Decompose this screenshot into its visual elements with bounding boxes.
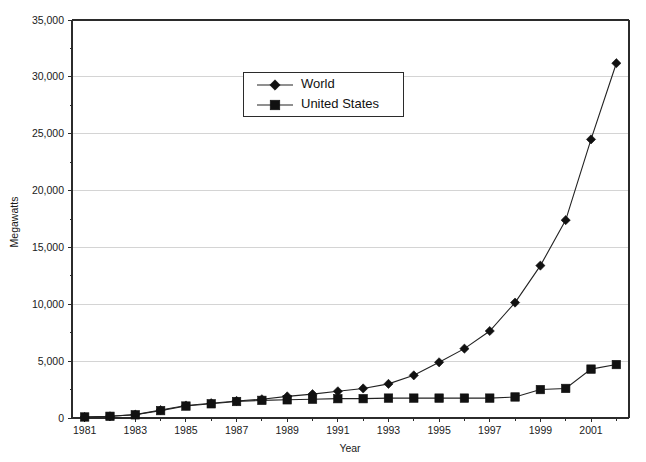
data-point	[612, 59, 621, 68]
data-point	[435, 358, 444, 367]
data-point	[384, 379, 393, 388]
data-point	[587, 365, 595, 373]
data-point	[511, 393, 519, 401]
data-point	[207, 400, 215, 408]
data-point	[359, 394, 367, 402]
x-axis-title: Year	[339, 442, 361, 454]
data-point	[384, 394, 392, 402]
legend-label: United States	[301, 96, 380, 111]
data-point	[106, 412, 114, 420]
x-tick-label: 1991	[326, 424, 350, 436]
data-point	[586, 135, 595, 144]
y-tick-label: 20,000	[32, 184, 64, 196]
x-tick-label: 1981	[73, 424, 97, 436]
legend-label: World	[301, 76, 335, 91]
data-point	[182, 402, 190, 410]
data-point	[283, 396, 291, 404]
x-tick-label: 1995	[427, 424, 451, 436]
y-tick-label: 0	[58, 412, 64, 424]
data-point	[561, 216, 570, 225]
y-tick-label: 5,000	[38, 355, 64, 367]
y-axis-tick-labels: 05,00010,00015,00020,00025,00030,00035,0…	[32, 14, 64, 424]
chart-container: 05,00010,00015,00020,00025,00030,00035,0…	[0, 0, 646, 462]
grid-lines	[72, 20, 629, 361]
x-tick-label: 1993	[377, 424, 401, 436]
data-point	[308, 395, 316, 403]
x-tick-label: 1997	[478, 424, 502, 436]
data-point	[334, 394, 342, 402]
x-axis-tick-labels: 1981198319851987198919911993199519971999…	[73, 424, 603, 436]
data-point	[232, 397, 240, 405]
y-axis-title: Megawatts	[8, 197, 20, 248]
data-point	[561, 384, 569, 392]
data-point	[536, 261, 545, 270]
data-point	[131, 411, 139, 419]
series-united-states	[80, 360, 620, 421]
x-tick-label: 1987	[225, 424, 249, 436]
x-tick-label: 2001	[579, 424, 603, 436]
data-point	[156, 406, 164, 414]
legend-marker	[270, 100, 280, 110]
y-tick-label: 30,000	[32, 70, 64, 82]
data-point	[536, 385, 544, 393]
data-point	[80, 413, 88, 421]
data-point	[435, 394, 443, 402]
line-chart: 05,00010,00015,00020,00025,00030,00035,0…	[0, 0, 646, 462]
x-tick-label: 1999	[529, 424, 553, 436]
y-tick-label: 25,000	[32, 127, 64, 139]
x-tick-label: 1983	[124, 424, 148, 436]
y-tick-label: 15,000	[32, 241, 64, 253]
x-tick-label: 1985	[174, 424, 198, 436]
data-point	[409, 371, 418, 380]
data-point	[460, 394, 468, 402]
data-point	[460, 344, 469, 353]
data-point	[612, 360, 620, 368]
data-point	[359, 384, 368, 393]
x-tick-label: 1989	[276, 424, 300, 436]
data-point	[486, 394, 494, 402]
y-tick-label: 10,000	[32, 298, 64, 310]
y-tick-label: 35,000	[32, 14, 64, 26]
data-point	[410, 394, 418, 402]
legend: WorldUnited States	[243, 72, 403, 116]
data-point	[258, 396, 266, 404]
